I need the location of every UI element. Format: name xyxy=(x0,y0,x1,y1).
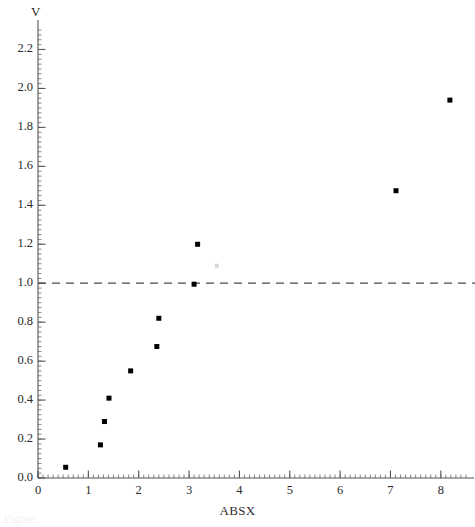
faint-marker xyxy=(215,264,219,268)
data-point xyxy=(102,419,107,424)
data-point xyxy=(394,188,399,193)
scatter-plot xyxy=(0,0,475,527)
data-point xyxy=(98,442,103,447)
data-point xyxy=(63,465,68,470)
data-point xyxy=(106,396,111,401)
data-point xyxy=(154,344,159,349)
data-point xyxy=(447,98,452,103)
data-point xyxy=(195,242,200,247)
data-point xyxy=(192,282,197,287)
data-point xyxy=(156,316,161,321)
caption-fragment: Figure xyxy=(4,512,35,527)
figure-container: V ABSX 0.00.20.40.60.81.01.21.41.61.82.0… xyxy=(0,0,475,527)
data-point xyxy=(128,368,133,373)
